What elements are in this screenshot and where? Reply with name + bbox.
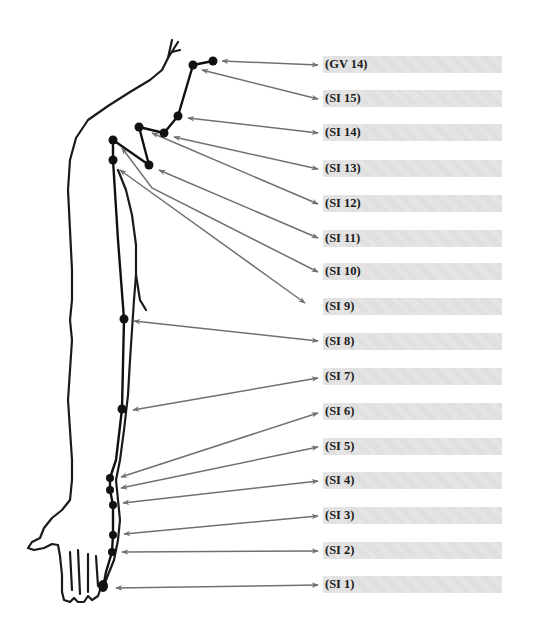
finger-lines	[70, 550, 98, 594]
label-si15: (SI 15)	[323, 90, 502, 107]
point-si4[interactable]	[109, 501, 117, 509]
label-si1: (SI 1)	[323, 576, 502, 593]
point-si15[interactable]	[189, 61, 198, 70]
label-si7: (SI 7)	[323, 368, 502, 385]
arrow-si14	[188, 118, 318, 133]
hand-contour-left	[28, 480, 100, 602]
label-text: (SI 15)	[325, 90, 361, 107]
arrow-gv14	[222, 61, 318, 65]
label-si4: (SI 4)	[323, 472, 502, 489]
point-si5[interactable]	[106, 486, 114, 494]
arrow-si13	[174, 137, 318, 169]
point-si6[interactable]	[106, 474, 114, 482]
label-si13: (SI 13)	[323, 160, 502, 177]
point-si13[interactable]	[160, 129, 169, 138]
point-si7[interactable]	[118, 405, 127, 414]
label-si12: (SI 12)	[323, 195, 502, 212]
label-text: (SI 4)	[325, 472, 355, 489]
label-si11: (SI 11)	[323, 230, 502, 247]
label-si2: (SI 2)	[323, 542, 502, 559]
label-text: (SI 9)	[325, 298, 355, 315]
arrow-si2	[122, 551, 318, 552]
label-text: (SI 12)	[325, 195, 361, 212]
arrow-si8	[134, 321, 318, 341]
point-si3[interactable]	[109, 531, 117, 539]
point-si2[interactable]	[108, 548, 116, 556]
point-si10[interactable]	[109, 136, 118, 145]
label-text: (SI 3)	[325, 507, 355, 524]
label-si14: (SI 14)	[323, 124, 502, 141]
elbow-crease	[136, 275, 146, 310]
label-text: (SI 10)	[325, 263, 361, 280]
arrow-si7	[133, 378, 318, 410]
label-text: (SI 13)	[325, 160, 361, 177]
label-si9: (SI 9)	[323, 298, 502, 315]
arm-outline	[28, 40, 180, 602]
point-si11[interactable]	[145, 161, 154, 170]
point-si1[interactable]	[98, 580, 108, 592]
arrow-si3	[124, 516, 318, 534]
point-si8[interactable]	[120, 315, 129, 324]
label-text: (SI 6)	[325, 403, 355, 420]
label-text: (SI 1)	[325, 576, 355, 593]
label-text: (SI 8)	[325, 333, 355, 350]
label-text: (SI 5)	[325, 438, 355, 455]
point-si14[interactable]	[174, 112, 183, 121]
point-si9[interactable]	[109, 156, 118, 165]
label-si10: (SI 10)	[323, 263, 502, 280]
label-text: (GV 14)	[325, 56, 367, 73]
arrow-si9	[120, 170, 305, 303]
pointer-arrows	[116, 61, 318, 588]
label-si5: (SI 5)	[323, 438, 502, 455]
label-text: (SI 14)	[325, 124, 361, 141]
label-si3: (SI 3)	[323, 507, 502, 524]
arrow-si12	[152, 133, 318, 204]
label-text: (SI 2)	[325, 542, 355, 559]
point-si12[interactable]	[135, 123, 144, 132]
arrow-si4	[123, 481, 318, 503]
point-gv14[interactable]	[209, 57, 218, 66]
label-text: (SI 7)	[325, 368, 355, 385]
arrow-si15	[202, 70, 318, 99]
arrow-si1	[116, 585, 318, 588]
label-si6: (SI 6)	[323, 403, 502, 420]
label-gv14: (GV 14)	[323, 56, 502, 73]
label-text: (SI 11)	[325, 230, 360, 247]
label-si8: (SI 8)	[323, 333, 502, 350]
